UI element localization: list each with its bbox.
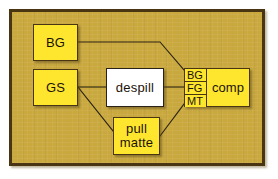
node-pull-matte[interactable]: pull matte <box>113 117 160 155</box>
comp-port-column: BG FG MT <box>184 68 206 107</box>
node-comp[interactable]: BG FG MT comp <box>184 68 250 107</box>
node-despill-label: despill <box>116 81 154 95</box>
node-gs-label: GS <box>46 81 65 95</box>
node-comp-label: comp <box>212 80 244 95</box>
comp-port-fg-label: FG <box>187 82 202 94</box>
diagram-frame: BG GS despill pull matte BG FG <box>9 9 265 166</box>
comp-body[interactable]: comp <box>206 68 250 107</box>
comp-port-bg-label: BG <box>187 69 203 81</box>
node-gs[interactable]: GS <box>33 69 78 106</box>
comp-port-fg[interactable]: FG <box>185 82 206 95</box>
node-despill[interactable]: despill <box>106 68 164 107</box>
node-bg-label: BG <box>46 36 65 50</box>
wire-pull-matte-to-comp-mt <box>160 104 184 136</box>
comp-port-mt-label: MT <box>187 95 203 107</box>
diagram-canvas: BG GS despill pull matte BG FG <box>0 0 278 179</box>
comp-port-mt[interactable]: MT <box>185 95 206 107</box>
node-pull-matte-label-line2: matte <box>120 136 154 150</box>
comp-port-bg[interactable]: BG <box>185 69 206 82</box>
node-pull-matte-label-line1: pull <box>126 122 147 136</box>
wire-bg-to-comp-bg <box>78 42 184 70</box>
node-bg[interactable]: BG <box>33 24 78 61</box>
